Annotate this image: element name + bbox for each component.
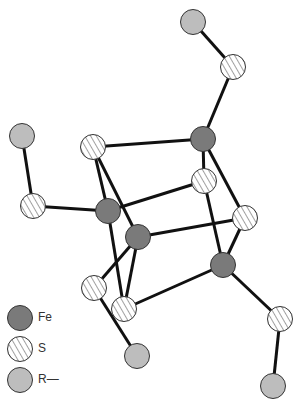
bond-Fe1-S3 [93, 139, 203, 147]
bond-Fe2-S4 [108, 181, 204, 211]
bond-S3-Fe3 [93, 147, 138, 237]
fe-atom-Fe4 [211, 253, 236, 278]
legend-r-swatch-icon [8, 368, 33, 393]
legend-label-fe: Fe [38, 310, 52, 324]
legend [8, 306, 33, 393]
fe-atom-Fe1 [191, 127, 216, 152]
r-atom-R3 [125, 344, 150, 369]
s-atom-S3 [81, 135, 106, 160]
legend-label-s: S [38, 341, 46, 355]
legend-fe-swatch-icon [8, 306, 33, 331]
atoms-layer [10, 10, 293, 399]
s-atom-S1 [221, 55, 246, 80]
bond-Fe2-S7 [108, 211, 124, 309]
fe-atom-Fe3 [126, 225, 151, 250]
s-atom-S6 [82, 276, 107, 301]
s-atom-S8 [268, 307, 293, 332]
fe-atom-Fe2 [96, 199, 121, 224]
r-atom-R4 [261, 374, 286, 399]
legend-label-r: R— [38, 372, 59, 386]
r-atom-R2 [10, 124, 35, 149]
s-atom-S5 [233, 206, 258, 231]
bond-Fe4-S7 [124, 265, 223, 309]
legend-s-swatch-icon [8, 337, 33, 362]
s-atom-S7 [112, 297, 137, 322]
bond-Fe3-S5 [138, 218, 245, 237]
r-atom-R1 [181, 10, 206, 35]
s-atom-S2 [21, 194, 46, 219]
s-atom-S4 [192, 169, 217, 194]
